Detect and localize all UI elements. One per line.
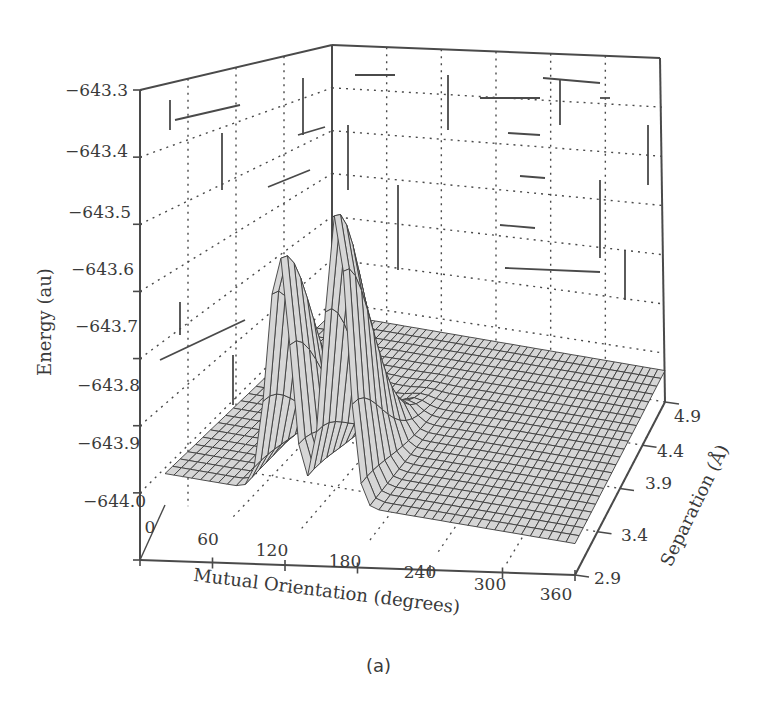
- grid-line: [332, 174, 662, 206]
- energy-surface: [165, 215, 665, 544]
- x-tick-label: 360: [540, 584, 572, 604]
- x-tick-label: 0: [145, 517, 156, 537]
- wall-mark: [543, 78, 600, 83]
- wall-mark: [175, 105, 240, 120]
- z-tick-label: −644.0: [83, 491, 146, 511]
- y-tick-mark: [620, 489, 634, 491]
- right-wall-top-edge: [332, 45, 660, 58]
- z-tick-label: −643.3: [65, 80, 128, 100]
- wall-mark: [160, 320, 245, 360]
- z-tick-label: −643.8: [77, 375, 140, 395]
- x-tick-label: 240: [404, 562, 436, 582]
- x-tick-label: 180: [329, 551, 361, 571]
- figure: −643.3 −643.4 −643.5 −643.6 −643.7 −643.…: [0, 0, 757, 707]
- z-tick-label: −643.5: [68, 202, 131, 222]
- surface-plot: −643.3 −643.4 −643.5 −643.6 −643.7 −643.…: [0, 0, 757, 707]
- z-axis-label: Energy (au): [34, 268, 55, 376]
- wall-mark: [508, 133, 540, 135]
- wall-mark: [268, 170, 310, 187]
- x-tick-label: 60: [197, 529, 219, 549]
- z-tick-labels: −643.3 −643.4 −643.5 −643.6 −643.7 −643.…: [65, 80, 146, 511]
- grid-line: [332, 259, 662, 303]
- wall-mark: [505, 268, 600, 272]
- x-tick-label: 120: [256, 540, 288, 560]
- grid-line: [140, 174, 332, 292]
- grid-line: [332, 216, 662, 254]
- y-tick-label: 3.9: [645, 473, 672, 493]
- y-tick-mark: [665, 402, 679, 404]
- y-tick-label: 4.9: [674, 406, 701, 426]
- z-tick-label: −643.6: [71, 259, 134, 279]
- grid-line: [332, 131, 662, 157]
- y-tick-label: 4.4: [657, 441, 684, 461]
- y-tick-label: 3.4: [621, 525, 648, 545]
- y-tick-mark: [643, 445, 657, 447]
- z-tick-label: −643.9: [77, 433, 140, 453]
- wall-mark: [520, 176, 545, 178]
- figure-caption: (a): [0, 655, 757, 676]
- wall-mark: [500, 225, 535, 228]
- right-back-edge: [660, 58, 665, 402]
- wall-mark: [298, 127, 325, 135]
- y-tick-mark: [598, 532, 612, 534]
- z-tick-label: −643.7: [75, 316, 138, 336]
- y-tick-mark: [575, 575, 589, 577]
- y-tick-label: 2.9: [594, 568, 621, 588]
- x-tick-label: 300: [474, 574, 506, 594]
- z-tick-label: −643.4: [65, 141, 128, 161]
